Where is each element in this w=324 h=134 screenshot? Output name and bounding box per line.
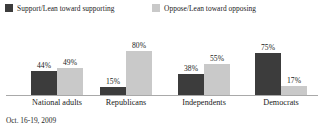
bar-democrats-oppose: 17% [281, 17, 307, 95]
legend-label-support: Support/Lean toward supporting [17, 4, 115, 13]
bar-value-label: 44% [37, 61, 51, 70]
bar-value-label: 38% [184, 64, 198, 73]
bar-national-adults-support: 44% [31, 17, 57, 95]
bar-group-republicans: 15% 80% [100, 17, 152, 95]
bar-rect [178, 74, 204, 95]
bar-rect [100, 87, 126, 95]
bar-independents-oppose: 55% [204, 17, 230, 95]
bar-rect [255, 53, 281, 95]
legend-swatch-support [5, 4, 13, 12]
bar-value-label: 55% [210, 54, 224, 63]
legend-item-oppose: Oppose/Lean toward opposing [152, 2, 256, 14]
chart-legend: Support/Lean toward supporting Oppose/Le… [0, 0, 324, 17]
bar-independents-support: 38% [178, 17, 204, 95]
bar-national-adults-oppose: 49% [57, 17, 83, 95]
bar-rect [204, 64, 230, 95]
legend-item-support: Support/Lean toward supporting [5, 2, 115, 14]
legend-swatch-oppose [152, 4, 160, 12]
bar-rect [31, 71, 57, 95]
bar-value-label: 80% [132, 41, 146, 50]
chart-footnote-date: Oct. 16-19, 2009 [6, 116, 56, 126]
bar-group-independents: 38% 55% [178, 17, 230, 95]
bar-group-democrats: 75% 17% [255, 17, 307, 95]
bar-rect [57, 68, 83, 95]
plot-area: 44% 49% 15% 80% [0, 17, 324, 96]
bar-democrats-support: 75% [255, 17, 281, 95]
bar-value-label: 49% [63, 58, 77, 67]
bar-republicans-support: 15% [100, 17, 126, 95]
bar-group-national-adults: 44% 49% [31, 17, 83, 95]
bar-value-label: 17% [287, 76, 301, 85]
category-label-republicans: Republicans [81, 97, 171, 108]
bar-chart: Support/Lean toward supporting Oppose/Le… [0, 0, 324, 134]
bar-rect [126, 51, 152, 95]
category-label-democrats: Democrats [236, 97, 324, 108]
bar-rect [281, 86, 307, 95]
bar-value-label: 75% [261, 43, 275, 52]
legend-label-oppose: Oppose/Lean toward opposing [164, 4, 256, 13]
x-axis-category-labels: National adults Republicans Independents… [0, 97, 324, 111]
bar-value-label: 15% [106, 77, 120, 86]
x-axis-baseline [6, 95, 318, 96]
bar-republicans-oppose: 80% [126, 17, 152, 95]
